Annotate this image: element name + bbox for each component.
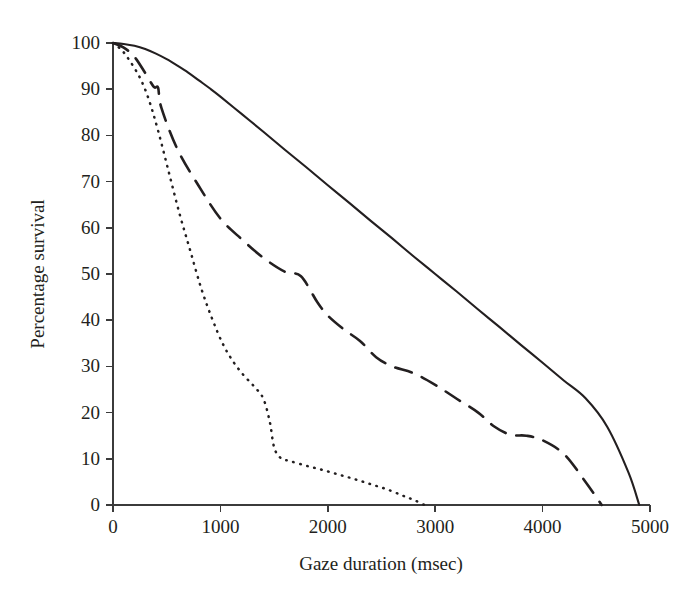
series-dashed-curve	[113, 43, 602, 505]
series-solid-curve	[113, 43, 639, 505]
x-axis-tick-marks	[113, 505, 650, 512]
y-tick-label: 0	[91, 494, 101, 515]
survival-curve-figure: 010002000300040005000 010203040506070809…	[0, 0, 692, 598]
y-tick-label: 60	[81, 217, 100, 238]
y-tick-label: 100	[72, 32, 101, 53]
y-axis-tick-marks	[106, 43, 113, 505]
y-tick-label: 30	[81, 355, 100, 376]
y-tick-label: 80	[81, 124, 100, 145]
y-tick-label: 20	[81, 402, 100, 423]
x-tick-label: 2000	[309, 516, 347, 537]
x-tick-label: 3000	[416, 516, 454, 537]
y-axis-title: Percentage survival	[27, 199, 48, 348]
x-axis-tick-labels: 010002000300040005000	[108, 516, 669, 537]
x-tick-label: 0	[108, 516, 118, 537]
x-axis-title: Gaze duration (msec)	[299, 553, 463, 575]
y-tick-label: 50	[81, 263, 100, 284]
chart-canvas: 010002000300040005000 010203040506070809…	[0, 0, 692, 598]
x-tick-label: 5000	[631, 516, 669, 537]
series-layer	[113, 43, 639, 505]
series-dotted-curve	[113, 43, 424, 505]
y-axis-tick-labels: 0102030405060708090100	[72, 32, 101, 515]
y-tick-label: 40	[81, 309, 100, 330]
x-tick-label: 4000	[524, 516, 562, 537]
y-tick-label: 90	[81, 78, 100, 99]
y-tick-label: 10	[81, 448, 100, 469]
x-tick-label: 1000	[201, 516, 239, 537]
y-tick-label: 70	[81, 171, 100, 192]
